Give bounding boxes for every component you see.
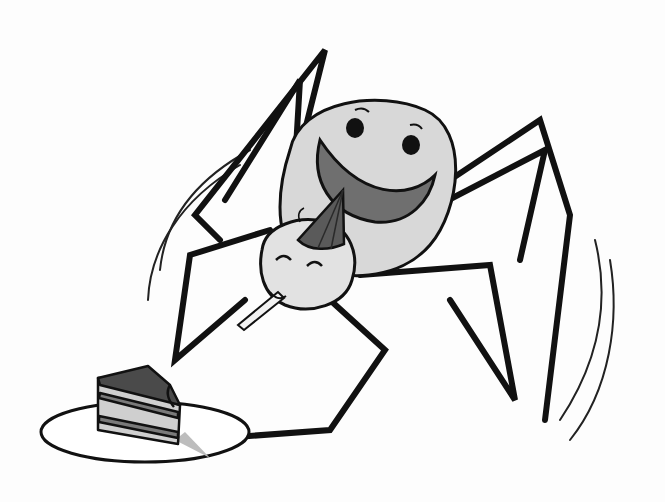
left-eye [346, 118, 364, 138]
right-eye [402, 135, 420, 155]
spider-birthday-illustration [0, 0, 665, 502]
